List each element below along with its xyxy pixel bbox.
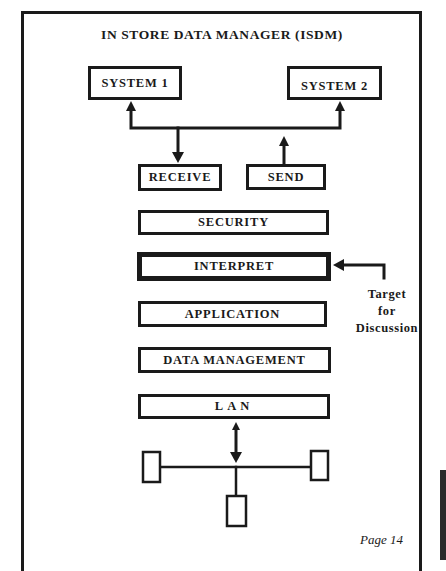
page-number: Page 14 [360,532,403,548]
layer-interpret-label: INTERPRET [194,259,274,274]
layer-data-management-label: DATA MANAGEMENT [163,353,305,368]
target-annotation: Target for Discussion [350,286,424,337]
diagram-title: IN STORE DATA MANAGER (ISDM) [22,27,422,43]
system-1-box: SYSTEM 1 [88,66,182,100]
annotation-line-1: Target [350,286,424,303]
annotation-line-2: for [350,303,424,320]
layer-lan-label: LAN [215,399,253,414]
annotation-line-3: Discussion [350,320,424,337]
receive-box: RECEIVE [138,164,222,191]
layer-application-label: APPLICATION [185,307,280,322]
send-label: SEND [268,170,305,185]
layer-application: APPLICATION [138,301,327,327]
receive-label: RECEIVE [149,170,212,185]
layer-interpret: INTERPRET [137,252,331,281]
system-2-label: SYSTEM 2 [301,79,368,94]
layer-data-management: DATA MANAGEMENT [138,347,331,373]
edge-bar [440,470,446,560]
send-box: SEND [246,164,326,190]
layer-security: SECURITY [138,210,329,235]
layer-lan: LAN [138,394,330,419]
system-1-label: SYSTEM 1 [101,76,168,91]
layer-security-label: SECURITY [198,215,269,230]
system-2-box: SYSTEM 2 [287,66,382,100]
